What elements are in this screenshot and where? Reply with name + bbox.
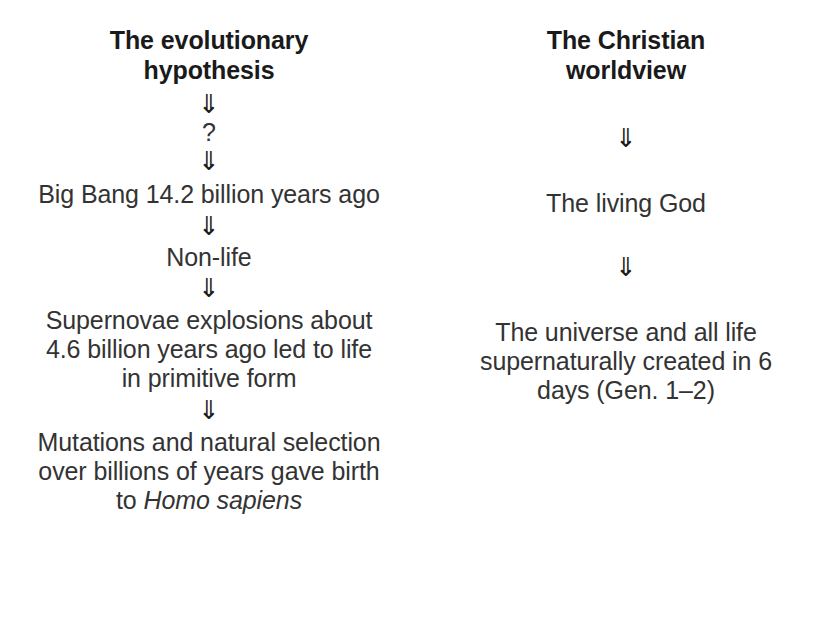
species-name-homo-sapiens: Homo sapiens — [143, 486, 302, 514]
node-question-mark: ? — [202, 118, 216, 147]
node-big-bang: Big Bang 14.2 billion years ago — [38, 180, 380, 209]
comparison-diagram: The evolutionary hypothesis ⇓ ? ⇓ Big Ba… — [0, 0, 832, 643]
column-christian-worldview: The Christian worldview ⇓ The living God… — [416, 0, 832, 405]
down-arrow-icon: ⇓ — [615, 125, 637, 151]
down-arrow-icon: ⇓ — [615, 254, 637, 280]
down-arrow-icon: ⇓ — [198, 275, 220, 301]
down-arrow-icon: ⇓ — [198, 213, 220, 239]
down-arrow-icon: ⇓ — [198, 91, 220, 117]
down-arrow-icon: ⇓ — [198, 397, 220, 423]
column-evolutionary-hypothesis: The evolutionary hypothesis ⇓ ? ⇓ Big Ba… — [0, 0, 416, 515]
node-supernovae-explosions: Supernovae explosions about 4.6 billion … — [35, 306, 383, 393]
node-the-living-god: The living God — [546, 189, 706, 218]
node-non-life: Non-life — [166, 243, 251, 272]
node-universe-created-in-six-days: The universe and all life supernaturally… — [456, 318, 796, 405]
heading-christian-worldview: The Christian worldview — [501, 26, 751, 85]
node-mutations-natural-selection: Mutations and natural selection over bil… — [35, 428, 383, 515]
down-arrow-icon: ⇓ — [198, 148, 220, 174]
heading-evolutionary-hypothesis: The evolutionary hypothesis — [84, 26, 334, 85]
